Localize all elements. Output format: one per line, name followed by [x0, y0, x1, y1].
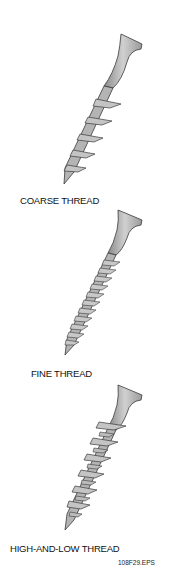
- high-and-low-thread-label: HIGH-AND-LOW THREAD: [10, 543, 120, 554]
- high-and-low-thread-screw-illustration: [0, 380, 176, 538]
- coarse-thread-screw-illustration: [0, 0, 176, 195]
- fine-thread-screw-illustration: [0, 205, 176, 363]
- figure-id: 108F29.EPS: [118, 559, 155, 566]
- fine-thread-label: FINE THREAD: [31, 368, 92, 379]
